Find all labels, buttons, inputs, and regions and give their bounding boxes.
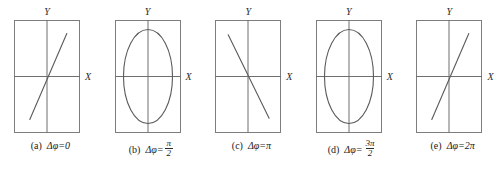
plot-area-e: Y X — [416, 20, 482, 133]
curve-svg-d — [316, 20, 382, 133]
caption-expression-e: Δφ= 2π — [447, 140, 475, 151]
panel-d: Y X — [302, 0, 403, 140]
caption-d: (d) Δφ= 3π 2 — [302, 140, 403, 160]
caption-e: (e) Δφ= 2π — [402, 140, 503, 151]
fraction-numerator-b: π — [165, 139, 174, 148]
panel-a: Y X — [0, 0, 101, 140]
x-axis-label-a: X — [85, 71, 91, 81]
x-axis-label-e: X — [487, 71, 493, 81]
fraction-numerator-d: 3π — [363, 139, 376, 148]
y-axis-label-b: Y — [145, 7, 151, 17]
panel-b: Y X — [101, 0, 202, 140]
caption-lhs-b: Δφ= — [145, 144, 163, 155]
caption-rhs-e: 2π — [465, 140, 475, 151]
caption-rhs-a: 0 — [65, 140, 70, 151]
caption-lhs-a: Δφ= — [47, 140, 65, 151]
caption-index-e: (e) — [431, 140, 442, 151]
y-axis-label-e: Y — [447, 7, 453, 17]
caption-lhs-c: Δφ= — [248, 140, 266, 151]
y-axis-label-d: Y — [346, 7, 352, 17]
cut-off-caption-line — [0, 162, 503, 170]
y-axis-label-a: Y — [44, 7, 50, 17]
plot-area-d: Y X — [316, 20, 382, 133]
caption-index-d: (d) — [328, 144, 340, 155]
caption-fraction-d: 3π 2 — [363, 139, 376, 159]
caption-index-b: (b) — [129, 144, 141, 155]
caption-a: (a) Δφ= 0 — [0, 140, 101, 151]
caption-rhs-c: π — [266, 140, 271, 151]
x-axis-label-b: X — [186, 71, 192, 81]
panel-c: Y X — [201, 0, 302, 140]
caption-lhs-d: Δφ= — [344, 144, 362, 155]
panels-row: Y X Y X — [0, 0, 503, 140]
x-axis-label-d: X — [387, 71, 393, 81]
curve-svg-c — [215, 20, 281, 133]
x-axis-label-c: X — [286, 71, 292, 81]
curve-svg-b — [115, 20, 181, 133]
fraction-denominator-b: 2 — [165, 148, 174, 158]
panel-e: Y X — [402, 0, 503, 140]
caption-expression-c: Δφ= π — [248, 140, 271, 151]
caption-index-a: (a) — [31, 140, 42, 151]
curve-svg-a — [14, 20, 80, 133]
lissajous-figure: Y X Y X — [0, 0, 503, 170]
caption-fraction-b: π 2 — [165, 139, 174, 159]
caption-lhs-e: Δφ= — [447, 140, 465, 151]
curve-svg-e — [416, 20, 482, 133]
caption-index-c: (c) — [232, 140, 243, 151]
plot-area-a: Y X — [14, 20, 80, 133]
plot-area-c: Y X — [215, 20, 281, 133]
plot-area-b: Y X — [115, 20, 181, 133]
caption-b: (b) Δφ= π 2 — [101, 140, 202, 160]
caption-expression-a: Δφ= 0 — [47, 140, 70, 151]
caption-c: (c) Δφ= π — [201, 140, 302, 151]
fraction-denominator-d: 2 — [366, 148, 375, 158]
caption-expression-b: Δφ= π 2 — [145, 140, 173, 160]
caption-expression-d: Δφ= 3π 2 — [344, 140, 376, 160]
y-axis-label-c: Y — [245, 7, 251, 17]
caption-row: (a) Δφ= 0 (b) Δφ= π 2 (c) Δφ= π — [0, 140, 503, 162]
